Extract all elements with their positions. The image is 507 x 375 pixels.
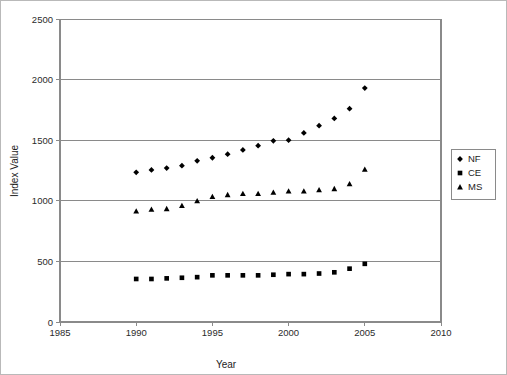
point-MS-1999 (270, 189, 276, 194)
point-NF-1995 (210, 155, 216, 161)
point-MS-1990 (133, 208, 139, 213)
point-NF-2002 (316, 123, 322, 129)
point-NF-1994 (194, 158, 200, 164)
point-CE-1991 (149, 277, 154, 282)
point-CE-1990 (134, 277, 139, 282)
y-tick-label-0: 0 (48, 317, 53, 328)
point-NF-2004 (347, 106, 353, 112)
y-tick-label-2000: 2000 (32, 74, 53, 85)
point-CE-1994 (195, 275, 200, 280)
axes-group (60, 19, 441, 322)
point-NF-1996 (225, 151, 231, 157)
point-MS-2005 (362, 166, 368, 171)
point-MS-1996 (225, 192, 231, 197)
point-NF-2003 (331, 115, 337, 121)
point-CE-1998 (256, 273, 261, 278)
chart-page: 05001000150020002500 1985199019952000200… (0, 0, 507, 375)
tickmarks-group (56, 19, 441, 326)
point-CE-1997 (241, 273, 246, 278)
series-MS (133, 166, 367, 213)
point-CE-2003 (332, 270, 337, 275)
point-NF-2005 (362, 85, 368, 91)
legend-marker-CE (458, 171, 463, 176)
point-MS-1993 (179, 203, 185, 208)
point-CE-2001 (302, 272, 307, 277)
point-MS-2004 (347, 181, 353, 186)
series-NF (133, 85, 367, 175)
x-tick-label-1995: 1995 (202, 327, 223, 338)
point-MS-1995 (210, 194, 216, 199)
x-tick-label-1990: 1990 (126, 327, 147, 338)
point-CE-1993 (180, 275, 185, 280)
x-tick-labels-group: 198519901995200020052010 (49, 327, 451, 338)
point-CE-1995 (210, 273, 215, 278)
point-MS-1998 (255, 191, 261, 196)
y-tick-label-500: 500 (37, 256, 53, 267)
x-tick-label-1985: 1985 (49, 327, 70, 338)
point-NF-1999 (270, 138, 276, 144)
point-MS-2000 (286, 188, 292, 193)
point-NF-1998 (255, 143, 261, 149)
point-MS-1991 (149, 206, 155, 211)
gridlines-group (60, 19, 441, 261)
point-NF-2000 (286, 137, 292, 143)
point-CE-1999 (271, 272, 276, 277)
x-tick-label-2010: 2010 (430, 327, 451, 338)
point-CE-1992 (164, 276, 169, 281)
point-NF-1990 (133, 169, 139, 175)
legend-label-MS[interactable]: MS (468, 181, 482, 192)
point-NF-1991 (149, 167, 155, 173)
point-CE-2002 (317, 271, 322, 276)
point-MS-2002 (316, 187, 322, 192)
point-CE-2004 (347, 266, 352, 271)
series-CE (134, 262, 367, 282)
point-NF-1993 (179, 163, 185, 169)
legend[interactable]: NFCEMS (451, 149, 495, 199)
data-points-group (133, 85, 367, 281)
x-axis-title: Year (216, 359, 237, 370)
point-CE-2000 (286, 272, 291, 277)
y-axis-title: Index Value (9, 145, 20, 198)
y-tick-label-1500: 1500 (32, 135, 53, 146)
point-NF-1992 (164, 165, 170, 171)
y-tick-label-1000: 1000 (32, 195, 53, 206)
scatter-chart: 05001000150020002500 1985199019952000200… (1, 1, 507, 375)
point-NF-1997 (240, 147, 246, 153)
x-tick-label-2005: 2005 (354, 327, 375, 338)
legend-label-NF[interactable]: NF (468, 153, 481, 164)
legend-label-CE[interactable]: CE (468, 167, 481, 178)
point-MS-2003 (331, 186, 337, 191)
y-tick-labels-group: 05001000150020002500 (32, 14, 53, 328)
point-NF-2001 (301, 130, 307, 136)
point-CE-1996 (225, 273, 230, 278)
x-tick-label-2000: 2000 (278, 327, 299, 338)
point-MS-1992 (164, 206, 170, 211)
point-MS-2001 (301, 188, 307, 193)
point-MS-1997 (240, 191, 246, 196)
y-tick-label-2500: 2500 (32, 14, 53, 25)
point-CE-2005 (362, 262, 367, 267)
chart-svg: 05001000150020002500 1985199019952000200… (1, 1, 507, 375)
